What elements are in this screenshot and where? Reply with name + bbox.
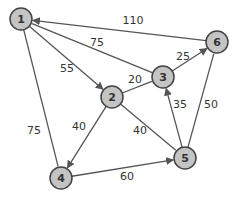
graph-diagram: 11075557520254040355060 123456	[0, 0, 238, 199]
node-3: 3	[152, 66, 174, 88]
graph-canvas: 11075557520254040355060 123456	[0, 0, 238, 199]
node-label: 3	[159, 71, 167, 84]
node-2: 2	[101, 86, 123, 108]
edge-weight-2-3: 20	[128, 73, 142, 86]
edge-1-4	[24, 30, 58, 167]
edge-weight-2-5: 40	[133, 124, 147, 137]
node-1: 1	[10, 8, 32, 30]
edge-2-4	[67, 106, 106, 168]
edge-weight-5-6: 50	[204, 98, 218, 111]
node-label: 6	[213, 36, 221, 49]
node-label: 5	[181, 152, 189, 165]
edge-weight-3-6: 25	[176, 50, 190, 63]
edge-weight-5-3: 35	[173, 98, 187, 111]
edge-weight-3-1: 75	[90, 36, 104, 49]
edge-weight-2-4: 40	[72, 120, 86, 133]
node-label: 2	[108, 91, 116, 104]
edge-weight-1-4: 75	[27, 124, 41, 137]
edge-weight-4-5: 60	[120, 170, 134, 183]
edge-weight-1-2: 55	[60, 62, 74, 75]
edge-weight-6-1: 110	[123, 14, 144, 27]
node-label: 4	[57, 172, 65, 185]
node-6: 6	[206, 31, 228, 53]
node-4: 4	[50, 167, 72, 189]
edge-6-1	[33, 20, 206, 40]
edge-2-5	[120, 104, 175, 150]
node-5: 5	[174, 147, 196, 169]
node-label: 1	[17, 13, 25, 26]
